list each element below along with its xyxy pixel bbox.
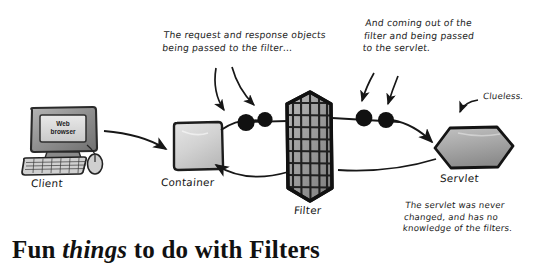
client-label: Client (30, 177, 63, 189)
response-object-1 (356, 110, 373, 127)
figure-title-part3: to do with Filters (127, 236, 320, 263)
annotation-servlet-line2: filter and being passed (364, 30, 475, 41)
annotation-arrow-servlet-2 (388, 76, 398, 104)
container-label: Container (160, 176, 215, 188)
annotation-arrow-servlet-1 (362, 73, 374, 101)
annotation-servlet-line3: to the servlet. (362, 42, 431, 53)
client-screen-line1: Web (56, 120, 69, 127)
client-screen-line2: browser (51, 128, 76, 135)
servlet-shape (435, 127, 513, 168)
container-shape (174, 122, 223, 170)
request-object-2 (257, 112, 272, 127)
annotation-request-line1: The request and response objects (163, 29, 326, 40)
annotation-clueless-line1: Clueless. (483, 91, 524, 101)
filter-label: Filter (293, 204, 322, 216)
client-computer-icon (22, 107, 103, 175)
figure-title-part2: things (62, 236, 127, 263)
annotation-servlet-note: And coming out of thefilter and being pa… (362, 17, 476, 55)
client-screen-text: Webbrowser (41, 120, 85, 135)
flow-filter-to-servlet (332, 110, 432, 142)
flow-client-to-container (104, 131, 166, 149)
request-object-1 (237, 114, 254, 131)
annotation-unchanged-note: The servlet was neverchanged, and has no… (402, 200, 515, 235)
annotation-servlet-line1: And coming out of the (365, 17, 473, 28)
annotation-request-line2: being passed to the filter… (162, 42, 293, 53)
annotation-arrow-clueless (460, 100, 478, 112)
figure-canvas: Webbrowser Client Container Filter Servl… (0, 0, 547, 274)
filter-shape (284, 90, 336, 203)
annotation-unchanged-line2: changed, and has no (404, 212, 499, 222)
servlet-label: Servlet (439, 172, 479, 184)
flow-container-to-filter (221, 112, 288, 131)
annotation-arrow-request-1 (215, 68, 224, 110)
annotation-request-note: The request and response objectsbeing pa… (162, 29, 327, 54)
figure-title: Fun things to do with Filters (12, 236, 320, 264)
annotation-unchanged-line1: The servlet was never (405, 200, 505, 210)
annotation-unchanged-line3: knowledge of the filters. (402, 223, 512, 233)
response-object-2 (378, 112, 394, 128)
annotation-arrow-request-2 (232, 67, 254, 105)
annotation-clueless-note: Clueless. (482, 91, 524, 103)
figure-title-part1: Fun (12, 236, 62, 263)
